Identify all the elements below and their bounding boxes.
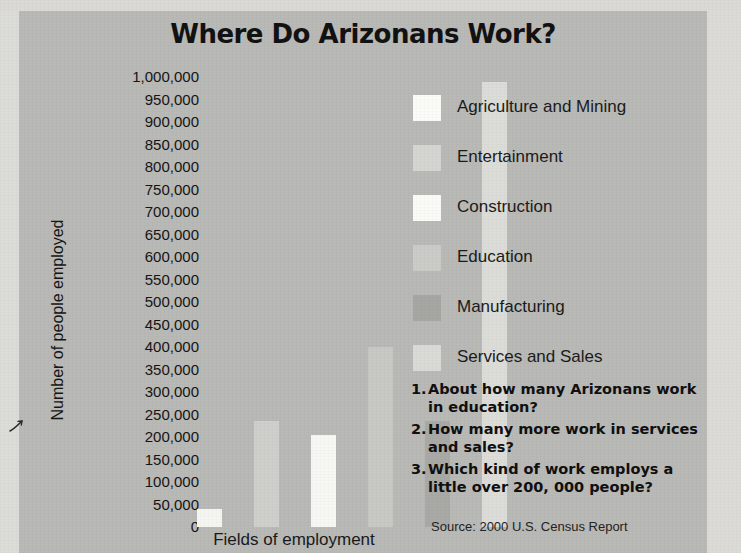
bar-0 [197, 509, 222, 527]
question-1: 1.About how many Arizonans work in educa… [411, 380, 707, 416]
legend-item-3: Education [413, 239, 693, 289]
top-paper-margin [0, 0, 741, 11]
bar-2 [311, 435, 336, 527]
legend-item-2: Construction [413, 189, 693, 239]
legend-item-0: Agriculture and Mining [413, 89, 693, 139]
legend-item-1: Entertainment [413, 139, 693, 189]
question-3: 3.Which kind of work employs a little ov… [411, 460, 707, 496]
legend-item-label: Construction [457, 197, 552, 217]
question-text: Which kind of work employs a little over… [428, 460, 707, 496]
legend-item-label: Entertainment [457, 147, 563, 167]
legend-item-label: Services and Sales [457, 347, 603, 367]
legend-swatch-icon [413, 245, 441, 271]
question-list: 1.About how many Arizonans work in educa… [411, 380, 707, 500]
pen-mark-annotation [8, 418, 24, 434]
question-number: 3. [411, 460, 427, 478]
bar-3 [368, 347, 393, 527]
x-axis-title: Fields of employment [174, 530, 414, 550]
legend-swatch-icon [413, 145, 441, 171]
legend-item-4: Manufacturing [413, 289, 693, 339]
legend-swatch-icon [413, 95, 441, 121]
chart-panel: Where Do Arizonans Work? Number of peopl… [19, 11, 707, 553]
legend-swatch-icon [413, 195, 441, 221]
legend-item-label: Education [457, 247, 533, 267]
question-2: 2.How many more work in services and sal… [411, 420, 707, 456]
chart-legend: Agriculture and MiningEntertainmentConst… [413, 89, 693, 389]
source-note: Source: 2000 U.S. Census Report [431, 519, 628, 534]
question-text: About how many Arizonans work in educati… [428, 380, 707, 416]
bar-1 [254, 421, 279, 527]
legend-swatch-icon [413, 345, 441, 371]
legend-item-label: Manufacturing [457, 297, 565, 317]
legend-swatch-icon [413, 295, 441, 321]
question-number: 1. [411, 380, 427, 398]
legend-item-label: Agriculture and Mining [457, 97, 626, 117]
question-number: 2. [411, 420, 427, 438]
right-paper-margin [707, 0, 741, 553]
page-canvas: Where Do Arizonans Work? Number of peopl… [0, 0, 741, 553]
question-text: How many more work in services and sales… [428, 420, 707, 456]
